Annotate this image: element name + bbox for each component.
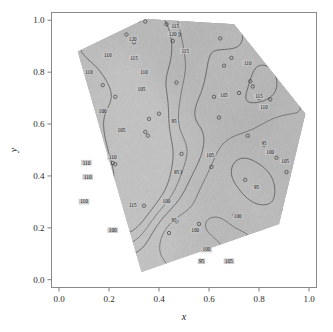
contour-label: 100 bbox=[266, 149, 274, 155]
contour-label: 110 bbox=[260, 104, 268, 110]
contour-label: 105 bbox=[206, 152, 214, 158]
x-tick-label: 1.0 bbox=[303, 294, 315, 304]
x-tick-label: 0.6 bbox=[203, 294, 215, 304]
y-tick-label: 1.0 bbox=[33, 15, 45, 25]
x-tick-label: 0.4 bbox=[153, 294, 165, 304]
contour-label: 100 bbox=[109, 227, 117, 233]
y-tick-label: 0.6 bbox=[33, 119, 45, 129]
contour-label: 95 bbox=[199, 258, 205, 264]
contour-label: 115 bbox=[129, 202, 137, 208]
y-axis-title: y bbox=[8, 147, 19, 153]
x-tick-label: 0.0 bbox=[53, 294, 65, 304]
contour-figure: 1201201151151151101101101101051001151101… bbox=[0, 0, 333, 332]
x-axis-ticks: 0.00.20.40.60.81.0 bbox=[53, 288, 315, 304]
x-axis-title: x bbox=[181, 311, 187, 322]
y-axis-ticks: 0.00.20.40.60.81.0 bbox=[33, 15, 51, 284]
contour-label: 115 bbox=[255, 93, 263, 99]
contour-label: 110 bbox=[84, 174, 92, 180]
x-tick-label: 0.8 bbox=[253, 294, 265, 304]
y-tick-label: 0.0 bbox=[33, 275, 45, 285]
contour-label: 105 bbox=[225, 258, 233, 264]
contour-label: 120 bbox=[169, 31, 177, 37]
contour-label: 115 bbox=[171, 23, 179, 29]
contour-label: 110 bbox=[104, 52, 112, 58]
contour-label: 95 bbox=[171, 118, 177, 124]
contour-label: 100 bbox=[203, 246, 211, 252]
contour-label: 120 bbox=[129, 36, 137, 42]
y-tick-label: 0.4 bbox=[33, 171, 45, 181]
x-tick-label: 0.2 bbox=[103, 294, 114, 304]
contour-label: 110 bbox=[109, 154, 117, 160]
contour-label: 105 bbox=[220, 92, 228, 98]
contour-label: 95 bbox=[261, 140, 267, 146]
contour-label: 110 bbox=[83, 160, 91, 166]
y-tick-label: 0.2 bbox=[33, 223, 44, 233]
contour-label: 105 bbox=[118, 127, 126, 133]
contour-label: 115 bbox=[181, 48, 189, 54]
contour-label: 100 bbox=[191, 227, 199, 233]
contour-label: 110 bbox=[85, 69, 93, 75]
contour-label: 110 bbox=[244, 60, 252, 66]
contour-label: 105 bbox=[281, 158, 289, 164]
contour-label: 95 bbox=[254, 184, 260, 190]
contour-label: 100 bbox=[234, 213, 242, 219]
contour-label: 105 bbox=[138, 86, 146, 92]
y-tick-label: 0.8 bbox=[33, 67, 45, 77]
contour-label: 115 bbox=[130, 55, 138, 61]
contour-label: 100 bbox=[99, 108, 107, 114]
contour-label: 110 bbox=[140, 69, 148, 75]
contour-label: 95 bbox=[171, 217, 177, 223]
contour-plot: 1201201151151151101101101101051001151101… bbox=[0, 0, 333, 332]
contour-label: 110 bbox=[80, 198, 88, 204]
contour-label: 95 bbox=[174, 169, 180, 175]
contour-label: 100 bbox=[163, 198, 171, 204]
